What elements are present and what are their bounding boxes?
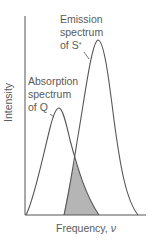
emission-spectrum-label: Emission spectrum of S* — [60, 13, 103, 52]
absorption-label-line3: of Q — [28, 101, 78, 114]
y-axis-label: Intensity — [2, 83, 14, 122]
x-axis-symbol: ν — [111, 222, 116, 234]
x-axis-label: Frequency, ν — [56, 222, 116, 234]
x-axis-label-text: Frequency, — [56, 222, 111, 234]
emission-label-line2: spectrum — [60, 26, 103, 39]
emission-leader-line — [84, 52, 89, 59]
spectral-overlap-diagram: Emission spectrum of S* Absorption spect… — [0, 0, 153, 242]
emission-label-line3: of S* — [60, 39, 103, 52]
absorption-label-line1: Absorption — [28, 75, 78, 88]
absorption-label-line2: spectrum — [28, 88, 78, 101]
emission-label-line1: Emission — [60, 13, 103, 26]
excited-state-superscript: * — [79, 41, 82, 48]
emission-label-species: of S — [60, 39, 79, 51]
absorption-spectrum-label: Absorption spectrum of Q — [28, 75, 78, 114]
